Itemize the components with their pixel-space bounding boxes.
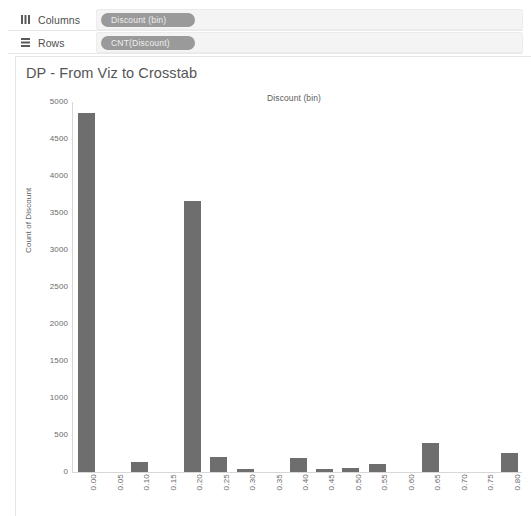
rows-icon [18, 38, 32, 47]
x-tick-label: 0.00 [89, 474, 98, 490]
bar[interactable] [501, 453, 518, 472]
x-tick-label: 0.20 [195, 474, 204, 490]
viz-card: DP - From Viz to Crosstab Discount (bin)… [15, 56, 531, 516]
y-tick-label: 500 [34, 430, 68, 439]
x-tick-label: 0.60 [407, 474, 416, 490]
y-tick-label: 2500 [34, 282, 68, 291]
columns-shelf-label: Columns [38, 14, 96, 26]
x-tick-label: 0.55 [380, 474, 389, 490]
bar[interactable] [78, 113, 95, 472]
x-tick-label: 0.75 [486, 474, 495, 490]
y-tick-label: 3500 [34, 208, 68, 217]
x-tick-label: 0.50 [354, 474, 363, 490]
y-tick-label: 2000 [34, 319, 68, 328]
pill-discount-bin[interactable]: Discount (bin) [101, 13, 195, 27]
columns-icon [18, 15, 32, 24]
columns-shelf[interactable]: Columns Discount (bin) [8, 9, 523, 31]
x-tick-label: 0.65 [433, 474, 442, 490]
bar[interactable] [210, 457, 227, 472]
x-axis-ticks: 0.000.050.100.150.200.250.300.350.400.45… [72, 474, 522, 516]
columns-shelf-slot[interactable]: Discount (bin) [96, 9, 523, 30]
plot-area [72, 102, 522, 472]
x-tick-label: 0.70 [460, 474, 469, 490]
y-tick-label: 4500 [34, 134, 68, 143]
y-tick-label: 0 [34, 467, 68, 476]
y-tick-label: 4000 [34, 171, 68, 180]
y-tick-label: 1000 [34, 393, 68, 402]
y-tick-label: 3000 [34, 245, 68, 254]
bar[interactable] [422, 443, 439, 472]
bar[interactable] [290, 458, 307, 472]
x-tick-label: 0.25 [222, 474, 231, 490]
tableau-worksheet-screenshot: Columns Discount (bin) Rows CNT(Discount… [0, 0, 531, 516]
x-tick-label: 0.35 [275, 474, 284, 490]
x-tick-label: 0.45 [327, 474, 336, 490]
pill-cnt-discount[interactable]: CNT(Discount) [101, 36, 195, 50]
rows-shelf-slot[interactable]: CNT(Discount) [96, 32, 523, 53]
x-tick-label: 0.30 [248, 474, 257, 490]
bar[interactable] [369, 464, 386, 472]
y-tick-label: 1500 [34, 356, 68, 365]
rows-shelf-label: Rows [38, 37, 96, 49]
bar[interactable] [184, 201, 201, 472]
bar-chart: Count of Discount 5000450040003500300025… [16, 57, 531, 516]
y-axis-ticks: 5000450040003500300025002000150010005000 [28, 57, 68, 516]
y-tick-label: 5000 [34, 97, 68, 106]
x-tick-label: 0.40 [301, 474, 310, 490]
shelf-area: Columns Discount (bin) Rows CNT(Discount… [0, 0, 531, 56]
x-tick-label: 0.10 [142, 474, 151, 490]
bar[interactable] [131, 462, 148, 472]
rows-shelf[interactable]: Rows CNT(Discount) [8, 32, 523, 54]
x-axis-line [72, 472, 522, 473]
x-tick-label: 0.15 [169, 474, 178, 490]
x-tick-label: 0.05 [116, 474, 125, 490]
x-tick-label: 0.80 [513, 474, 522, 490]
